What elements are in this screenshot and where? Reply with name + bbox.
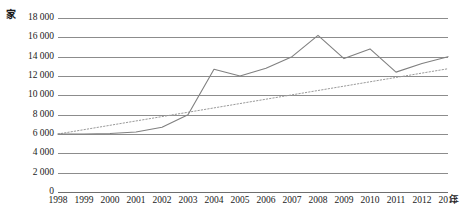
x-axis-baseline <box>58 192 448 193</box>
x-axis-tick: 2012 <box>413 196 432 206</box>
x-axis-tick: 2003 <box>179 196 198 206</box>
x-axis-tick: 1998 <box>49 196 68 206</box>
x-axis-tick: 2004 <box>205 196 224 206</box>
x-axis-tick: 2007 <box>283 196 302 206</box>
series-layer <box>58 18 448 192</box>
y-axis-tick: 8 000 <box>33 110 54 120</box>
y-axis-tick: 6 000 <box>33 129 54 139</box>
x-axis-tick: 2010 <box>361 196 380 206</box>
x-axis-tick: 2009 <box>335 196 354 206</box>
y-axis-tick: 14 000 <box>28 52 54 62</box>
x-axis-tick: 2008 <box>309 196 328 206</box>
x-axis-tick: 1999 <box>75 196 94 206</box>
y-axis-tick: 4 000 <box>33 149 54 159</box>
line-chart: 家 02 0004 0006 0008 00010 00012 00014 00… <box>0 0 463 224</box>
y-axis-tick: 16 000 <box>28 33 54 43</box>
x-axis-tick: 2002 <box>153 196 172 206</box>
x-axis-tick-labels: 1998199920002001200220032004200520062007… <box>58 196 448 214</box>
x-axis-tick: 2001 <box>127 196 146 206</box>
data-series-line <box>58 35 448 134</box>
y-axis-tick: 12 000 <box>28 71 54 81</box>
x-axis-tick: 2006 <box>257 196 276 206</box>
y-axis-tick: 18 000 <box>28 13 54 23</box>
plot-area <box>58 18 448 192</box>
y-axis-tick: 10 000 <box>28 91 54 101</box>
trendline-series <box>58 69 448 134</box>
x-axis-tick: 2011 <box>387 196 406 206</box>
x-axis-tick: 2005 <box>231 196 250 206</box>
x-axis-unit-label: 年 <box>449 195 459 205</box>
y-axis-tick-labels: 02 0004 0006 0008 00010 00012 00014 0001… <box>0 0 58 224</box>
y-axis-tick: 2 000 <box>33 168 54 178</box>
x-axis-tick: 2000 <box>101 196 120 206</box>
